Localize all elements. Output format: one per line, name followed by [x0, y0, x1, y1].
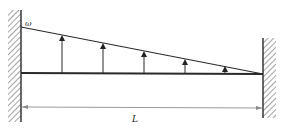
load-arrows	[59, 35, 228, 73]
length-label: L	[131, 114, 138, 124]
load-arrow	[141, 51, 147, 73]
load-arrow	[59, 35, 65, 73]
right-fixed-support	[263, 38, 276, 118]
dimension-line	[22, 107, 262, 108]
left-fixed-support	[8, 10, 21, 122]
dimension-arrow-right-icon	[256, 106, 262, 110]
load-arrow	[182, 59, 188, 73]
left-wall-hatch	[8, 10, 21, 122]
length-dimension	[22, 105, 262, 110]
load-label: ω	[25, 19, 32, 28]
load-arrow	[100, 43, 106, 73]
right-wall-hatch	[263, 38, 276, 118]
beam	[21, 73, 263, 74]
load-envelope-line	[21, 27, 263, 74]
dimension-arrow-left-icon	[22, 105, 28, 109]
beam-diagram: ω L	[0, 0, 288, 132]
